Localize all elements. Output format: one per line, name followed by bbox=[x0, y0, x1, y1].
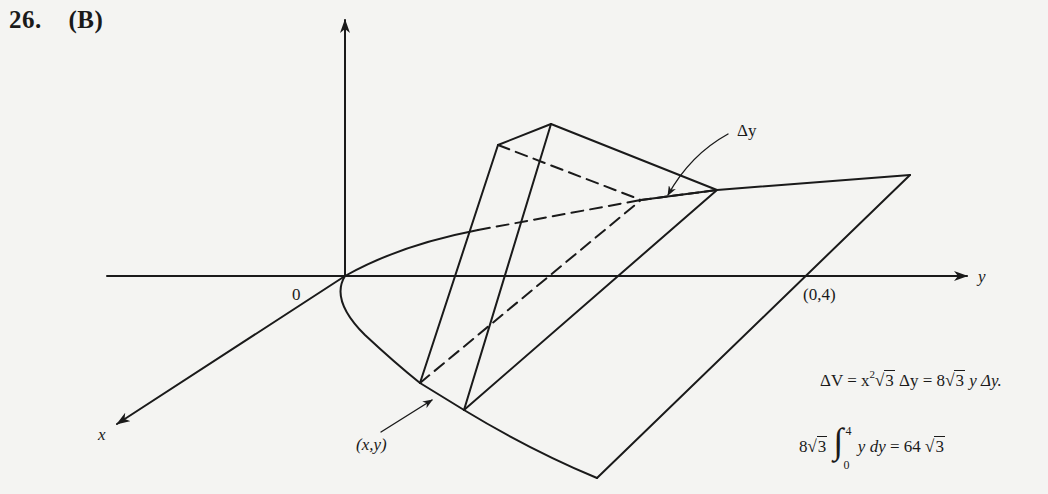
point-xy-pointer bbox=[381, 400, 432, 432]
integral-sign: ∫ 4 0 bbox=[832, 437, 854, 459]
integral-coefficient: 8 bbox=[799, 437, 808, 456]
slab-hidden-bottom bbox=[420, 200, 641, 383]
base-curve-upper-right bbox=[641, 175, 910, 200]
point-xy-label: (x,y) bbox=[356, 436, 387, 453]
base-curve-upper-hidden bbox=[478, 200, 641, 230]
origin-label: 0 bbox=[292, 286, 301, 303]
solid-cross-section-diagram bbox=[0, 0, 1048, 494]
slab-front-edge-left bbox=[420, 145, 498, 383]
sqrt-symbol: √3 bbox=[808, 438, 828, 455]
formula-rhs: y Δy. bbox=[965, 371, 1002, 390]
formula-mid: Δy = 8 bbox=[895, 371, 945, 390]
point-0-4-label: (0,4) bbox=[803, 286, 836, 303]
integrand: y dy bbox=[858, 437, 886, 456]
slab-front-edge-right bbox=[464, 124, 551, 410]
integral-lower-bound: 0 bbox=[844, 459, 850, 471]
base-edge-right bbox=[597, 175, 910, 478]
sqrt-symbol: √3 bbox=[945, 372, 965, 389]
slab-back-top-edge bbox=[551, 124, 717, 190]
x-axis-label: x bbox=[98, 426, 106, 443]
delta-y-pointer bbox=[668, 134, 728, 195]
slab-hidden-top bbox=[498, 145, 641, 200]
slab-top-edge bbox=[498, 124, 551, 145]
integral-equals: = 64 bbox=[886, 437, 925, 456]
formula-lhs: ΔV = x bbox=[820, 371, 870, 390]
delta-y-label: Δy bbox=[737, 122, 756, 139]
integral-formula: 8√3 ∫ 4 0 y dy = 64 √3 bbox=[799, 437, 945, 459]
integral-upper-bound: 4 bbox=[846, 425, 852, 437]
sqrt-symbol: √3 bbox=[925, 438, 945, 455]
solution-page: 26. (B) bbox=[0, 0, 1048, 494]
volume-element-formula: ΔV = x2√3 Δy = 8√3 y Δy. bbox=[820, 369, 1002, 389]
sqrt-symbol: √3 bbox=[875, 372, 895, 389]
slab-back-bottom-edge bbox=[464, 190, 717, 410]
x-axis bbox=[117, 276, 345, 424]
y-axis-label: y bbox=[978, 268, 986, 285]
